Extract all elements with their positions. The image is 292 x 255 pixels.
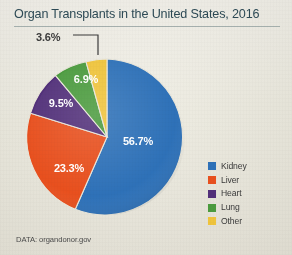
slice-label-liver: 23.3% bbox=[54, 162, 85, 174]
callout-label-other: 3.6% bbox=[36, 31, 60, 43]
legend-swatch-lung-icon bbox=[208, 204, 216, 212]
pie-chart: 56.7% 23.3% 9.5% 6.9% bbox=[18, 45, 196, 223]
legend-item-other[interactable]: Other bbox=[208, 215, 284, 227]
legend-item-liver[interactable]: Liver bbox=[208, 174, 284, 186]
slice-label-kidney: 56.7% bbox=[123, 135, 154, 147]
legend-label-other: Other bbox=[221, 217, 242, 226]
legend-swatch-other-icon bbox=[208, 217, 216, 225]
pie-svg: 56.7% 23.3% 9.5% 6.9% bbox=[18, 45, 196, 223]
legend-label-heart: Heart bbox=[221, 189, 242, 198]
legend-swatch-liver-icon bbox=[208, 176, 216, 184]
legend-swatch-kidney-icon bbox=[208, 162, 216, 170]
title-divider bbox=[14, 26, 280, 27]
chart-page: Organ Transplants in the United States, … bbox=[0, 0, 292, 255]
legend-item-lung[interactable]: Lung bbox=[208, 201, 284, 213]
slice-label-lung: 6.9% bbox=[74, 73, 99, 85]
legend-swatch-heart-icon bbox=[208, 190, 216, 198]
slice-label-heart: 9.5% bbox=[49, 97, 74, 109]
legend-label-liver: Liver bbox=[221, 176, 239, 185]
legend: Kidney Liver Heart Lung Other bbox=[208, 160, 284, 229]
legend-label-lung: Lung bbox=[221, 203, 240, 212]
legend-label-kidney: Kidney bbox=[221, 162, 247, 171]
legend-item-kidney[interactable]: Kidney bbox=[208, 160, 284, 172]
page-title: Organ Transplants in the United States, … bbox=[14, 7, 282, 21]
source-attribution: DATA: organdonor.gov bbox=[16, 235, 91, 244]
legend-item-heart[interactable]: Heart bbox=[208, 188, 284, 200]
